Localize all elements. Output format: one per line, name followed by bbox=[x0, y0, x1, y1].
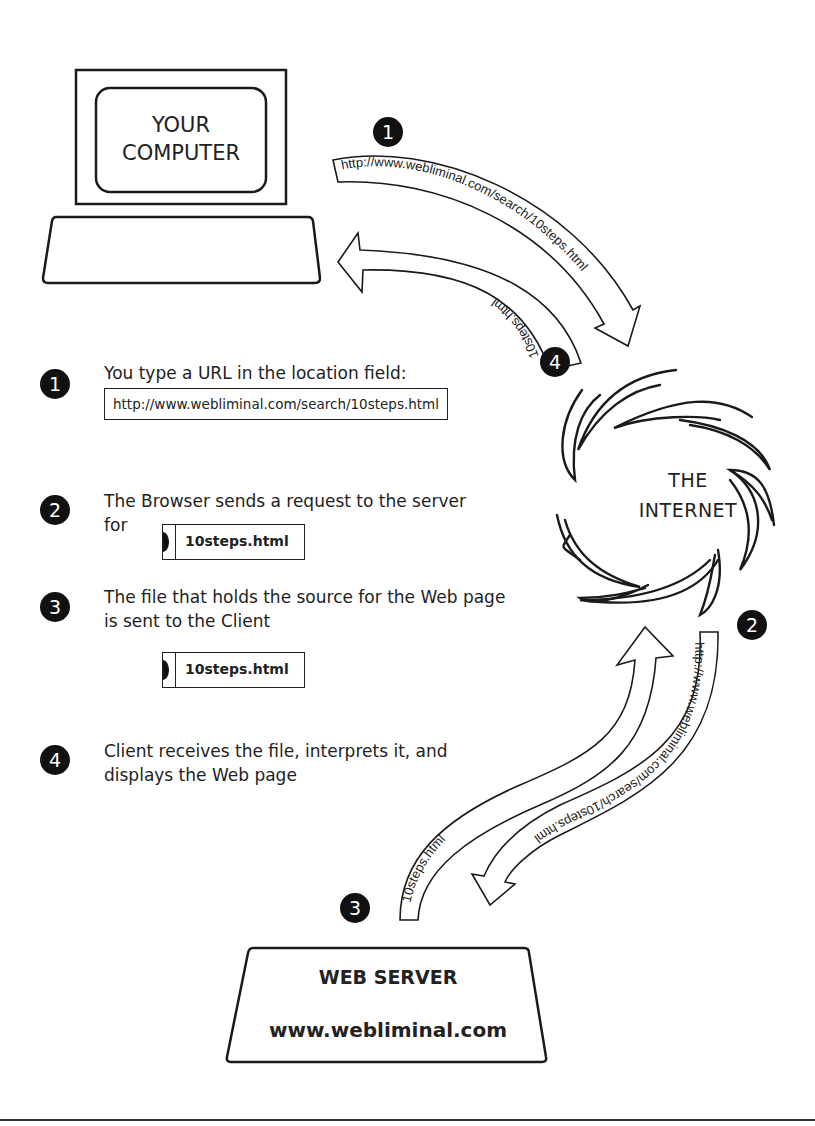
step-1-text: You type a URL in the location field: bbox=[104, 362, 407, 384]
step-3-text-line2: is sent to the Client bbox=[104, 610, 270, 632]
web-server-title: WEB SERVER bbox=[238, 966, 538, 988]
internet-label: THE INTERNET bbox=[628, 465, 748, 525]
file-icon-request: 10steps.html bbox=[162, 524, 305, 560]
file-tab-icon bbox=[163, 525, 176, 559]
computer-label: YOUR COMPUTER bbox=[96, 111, 266, 167]
step-badge-4: 4 bbox=[40, 745, 70, 775]
step-badge-1: 1 bbox=[40, 369, 70, 399]
internet-label-line1: THE bbox=[628, 465, 748, 495]
step-badge-3: 3 bbox=[40, 592, 70, 622]
file-tab-icon bbox=[163, 653, 176, 687]
internet-label-line2: INTERNET bbox=[628, 495, 748, 525]
location-field-url: http://www.webliminal.com/search/10steps… bbox=[104, 388, 448, 420]
computer-label-line2: COMPUTER bbox=[96, 139, 266, 167]
computer-icon bbox=[43, 70, 320, 283]
file-name: 10steps.html bbox=[185, 653, 289, 686]
arrow-badge-4: 4 bbox=[540, 347, 570, 377]
arrow-badge-1: 1 bbox=[373, 117, 403, 147]
step-4-text-line2: displays the Web page bbox=[104, 764, 297, 786]
computer-label-line1: YOUR bbox=[96, 111, 266, 139]
arrow-badge-3: 3 bbox=[340, 893, 370, 923]
step-badge-2: 2 bbox=[40, 495, 70, 525]
file-icon-response: 10steps.html bbox=[162, 652, 305, 688]
step-2-text-line1: The Browser sends a request to the serve… bbox=[104, 490, 466, 512]
step-2-text-line2: for bbox=[104, 514, 127, 536]
arrow-badge-2: 2 bbox=[737, 610, 767, 640]
diagram-canvas: http://www.webliminal.com/search/10steps… bbox=[0, 0, 815, 1126]
file-name: 10steps.html bbox=[185, 525, 289, 558]
step-3-text-line1: The file that holds the source for the W… bbox=[104, 586, 505, 608]
web-server-domain: www.webliminal.com bbox=[238, 1018, 538, 1042]
step-4-text-line1: Client receives the file, interprets it,… bbox=[104, 740, 448, 762]
